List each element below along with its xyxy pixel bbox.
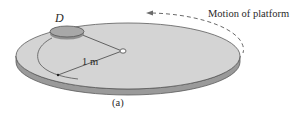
platform-top [16, 23, 240, 89]
disk-D [50, 26, 84, 40]
path-point-dot [57, 74, 59, 76]
pivot-icon [120, 49, 126, 53]
rotating-platform-diagram: D 1 m Motion of platform (a) [0, 0, 308, 126]
motion-label: Motion of platform [208, 8, 289, 19]
disk-label: D [54, 11, 64, 25]
radius-label: 1 m [82, 56, 98, 67]
figure-caption: (a) [112, 97, 124, 109]
